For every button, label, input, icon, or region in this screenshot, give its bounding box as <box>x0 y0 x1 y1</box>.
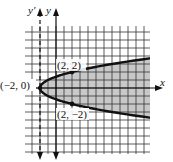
parabola-graph: y' y x (−2, 0) (2, 2) (2, −2) <box>0 0 173 162</box>
y-axis-label: y <box>45 4 51 16</box>
y-prime-axis-down-arrow-icon <box>37 152 43 160</box>
point-2-neg2 <box>70 102 75 107</box>
y-prime-axis-label: y' <box>27 4 36 16</box>
label-point-2-2: (2, 2) <box>57 59 81 72</box>
point-vertex <box>38 86 42 90</box>
label-point-2-neg2: (2, −2) <box>57 108 87 121</box>
y-axis-arrow-icon <box>53 8 59 16</box>
y-axis-down-arrow-icon <box>53 152 59 160</box>
x-axis-label: x <box>159 76 165 88</box>
y-prime-axis-arrow-icon <box>37 8 43 16</box>
label-vertex: (−2, 0) <box>0 79 30 92</box>
